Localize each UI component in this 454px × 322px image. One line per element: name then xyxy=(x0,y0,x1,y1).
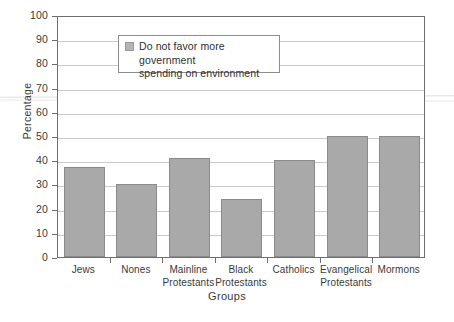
gridline xyxy=(58,162,424,163)
x-tick-mark xyxy=(372,258,373,263)
y-tick-label: 40 xyxy=(12,154,48,166)
gridline xyxy=(58,90,424,91)
gridline xyxy=(58,186,424,187)
bar xyxy=(327,136,368,257)
x-tick-mark xyxy=(267,258,268,263)
bar xyxy=(379,136,420,257)
x-tick-mark xyxy=(162,258,163,263)
y-tick-mark xyxy=(52,258,57,259)
bar xyxy=(274,160,315,257)
x-category-label: Mormons xyxy=(366,264,431,277)
y-tick-label: 10 xyxy=(12,227,48,239)
x-axis-title: Groups xyxy=(0,290,454,302)
x-category-label-line: Mormons xyxy=(366,264,431,277)
y-tick-label: 50 xyxy=(12,130,48,142)
bar xyxy=(221,199,262,257)
x-tick-mark xyxy=(215,258,216,263)
x-tick-mark xyxy=(320,258,321,263)
bar xyxy=(169,158,210,257)
legend-label-line1: Do not favor more government xyxy=(139,40,274,67)
y-tick-label: 20 xyxy=(12,203,48,215)
y-tick-label: 100 xyxy=(12,9,48,21)
y-tick-label: 90 xyxy=(12,33,48,45)
legend-item: Do not favor more government spending on… xyxy=(125,40,274,81)
gridline xyxy=(58,114,424,115)
y-tick-label: 70 xyxy=(12,82,48,94)
y-tick-label: 80 xyxy=(12,57,48,69)
y-tick-label: 30 xyxy=(12,178,48,190)
legend-label: Do not favor more government spending on… xyxy=(139,40,274,81)
y-tick-label: 0 xyxy=(12,251,48,263)
y-tick-label: 60 xyxy=(12,106,48,118)
bar xyxy=(116,184,157,257)
legend-label-line2: spending on environment xyxy=(139,67,274,81)
x-category-label-line: Protestants xyxy=(209,277,274,290)
bar xyxy=(64,167,105,257)
x-tick-mark xyxy=(110,258,111,263)
figure-bar-chart: Percentage 0102030405060708090100 Do not… xyxy=(0,0,454,322)
legend: Do not favor more government spending on… xyxy=(118,35,280,73)
legend-swatch-icon xyxy=(125,42,134,51)
plot-area: Do not favor more government spending on… xyxy=(57,16,425,258)
gridline xyxy=(58,138,424,139)
x-category-label-line: Protestants xyxy=(314,277,379,290)
